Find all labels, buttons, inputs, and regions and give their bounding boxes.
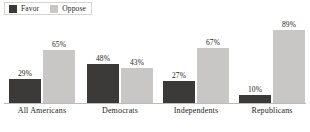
legend-item-favor: Favor bbox=[9, 5, 39, 13]
bar-oppose-republicans: 89% bbox=[273, 20, 305, 103]
bar-rect-favor-democrats bbox=[87, 64, 119, 103]
bar-group-republicans: 10% 89% bbox=[234, 18, 310, 103]
bar-value-oppose-all-americans: 65% bbox=[52, 40, 66, 49]
category-label-all-americans: All Americans bbox=[4, 105, 80, 116]
legend-label-favor: Favor bbox=[21, 5, 39, 13]
bar-favor-democrats: 48% bbox=[87, 54, 119, 103]
legend-swatch-favor bbox=[9, 5, 17, 13]
bar-value-oppose-republicans: 89% bbox=[282, 20, 296, 29]
bar-group-all-americans: 29% 65% bbox=[4, 18, 80, 103]
bar-oppose-independents: 67% bbox=[197, 38, 229, 103]
bar-rect-favor-independents bbox=[163, 81, 195, 103]
bar-favor-all-americans: 29% bbox=[9, 69, 41, 103]
category-label-independents: Independents bbox=[158, 105, 234, 116]
bar-value-favor-democrats: 48% bbox=[96, 54, 110, 63]
chart-legend: Favor Oppose bbox=[4, 2, 92, 15]
plot-area: 29% 65% 48% 43% bbox=[0, 18, 310, 104]
bar-rect-favor-republicans bbox=[239, 95, 271, 103]
bar-favor-independents: 27% bbox=[163, 71, 195, 103]
bar-chart: Favor Oppose 29% 65% 48% bbox=[0, 0, 310, 132]
category-label-republicans: Republicans bbox=[234, 105, 310, 116]
bar-group-independents: 27% 67% bbox=[158, 18, 234, 103]
category-label-democrats: Democrats bbox=[82, 105, 158, 116]
bar-rect-oppose-democrats bbox=[121, 68, 153, 103]
bar-rect-oppose-independents bbox=[197, 48, 229, 103]
bar-value-favor-all-americans: 29% bbox=[18, 69, 32, 78]
bar-value-favor-republicans: 10% bbox=[248, 85, 262, 94]
bar-oppose-all-americans: 65% bbox=[43, 40, 75, 103]
legend-item-oppose: Oppose bbox=[50, 5, 86, 13]
legend-label-oppose: Oppose bbox=[62, 5, 86, 13]
legend-swatch-oppose bbox=[50, 5, 58, 13]
axis-baseline bbox=[4, 103, 306, 104]
bar-value-oppose-independents: 67% bbox=[206, 38, 220, 47]
bar-oppose-democrats: 43% bbox=[121, 58, 153, 103]
bar-group-democrats: 48% 43% bbox=[82, 18, 158, 103]
bar-rect-oppose-republicans bbox=[273, 30, 305, 103]
bar-value-oppose-democrats: 43% bbox=[130, 58, 144, 67]
category-axis: All Americans Democrats Independents Rep… bbox=[0, 105, 310, 119]
bar-favor-republicans: 10% bbox=[239, 85, 271, 103]
bar-rect-oppose-all-americans bbox=[43, 50, 75, 103]
bar-value-favor-independents: 27% bbox=[172, 71, 186, 80]
bar-rect-favor-all-americans bbox=[9, 79, 41, 103]
